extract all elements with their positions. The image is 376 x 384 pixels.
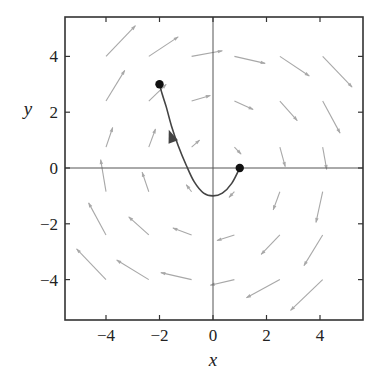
marked-point: [155, 80, 163, 88]
field-arrow: [280, 56, 309, 76]
field-arrow: [186, 185, 191, 192]
field-arrow: [161, 273, 192, 280]
field-arrow: [323, 101, 340, 133]
y-axis-label: y: [22, 98, 33, 119]
field-arrow: [89, 203, 106, 235]
y-tick-label: 2: [50, 103, 59, 122]
x-tick-label: 4: [316, 326, 325, 345]
field-arrow: [234, 56, 265, 63]
field-arrow: [316, 192, 323, 223]
marked-points: [155, 80, 244, 172]
x-tick-label: 2: [262, 326, 271, 345]
marked-point: [236, 164, 244, 172]
field-arrow: [129, 217, 149, 235]
vector-field-plot: −4−2024−4−2024 x y: [0, 0, 376, 384]
field-arrow: [173, 228, 192, 235]
field-arrow: [304, 235, 323, 266]
field-arrow: [323, 56, 352, 87]
field-arrow: [142, 172, 149, 192]
y-tick-label: −2: [40, 215, 58, 234]
field-arrow: [106, 70, 125, 101]
field-arrow: [117, 260, 149, 280]
x-tick-label: −4: [97, 326, 116, 345]
field-arrow: [210, 280, 234, 286]
field-arrow: [234, 101, 253, 109]
field-arrow: [229, 192, 234, 198]
field-arrow: [106, 26, 135, 57]
x-axis-label: x: [208, 349, 218, 370]
y-tick-label: 4: [50, 47, 59, 66]
field-arrow: [280, 101, 297, 121]
field-arrow: [291, 280, 323, 311]
y-tick-label: 0: [50, 159, 59, 178]
y-tick-label: −4: [40, 271, 59, 290]
field-arrow: [280, 147, 285, 167]
x-tick-label: −2: [150, 326, 168, 345]
field-arrow: [217, 235, 234, 241]
x-tick-label: 0: [209, 326, 218, 345]
field-arrow: [106, 128, 113, 148]
field-arrow: [101, 160, 106, 192]
field-arrow: [192, 51, 223, 57]
field-arrow: [149, 129, 156, 147]
field-arrow: [246, 280, 279, 298]
field-arrow: [273, 192, 280, 210]
field-arrow: [261, 235, 280, 255]
field-arrow: [234, 147, 241, 154]
axis-ticks: −4−2024−4−2024: [40, 17, 363, 345]
field-arrow: [192, 95, 211, 101]
field-arrow: [323, 147, 327, 169]
field-arrow: [77, 249, 106, 280]
field-arrow: [149, 37, 178, 57]
field-arrow: [192, 140, 200, 147]
